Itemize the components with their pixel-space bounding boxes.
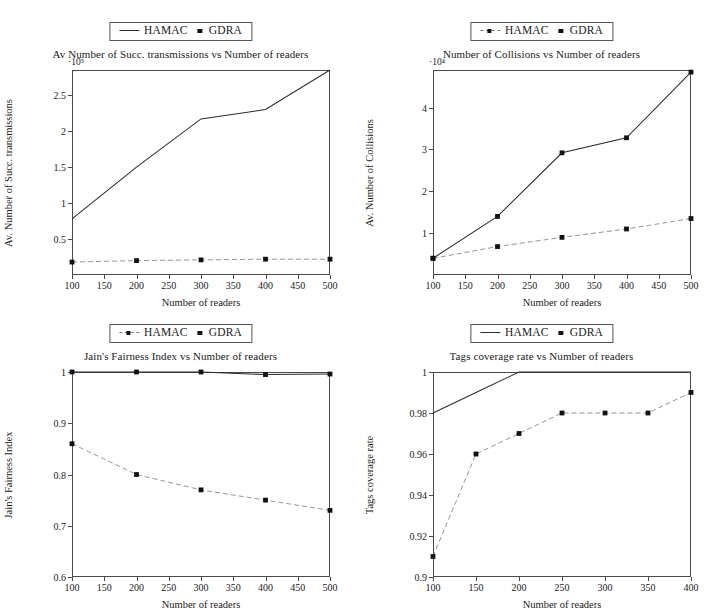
series-line-hamac	[72, 70, 330, 219]
series-layer	[361, 0, 722, 301]
data-point-marker	[134, 258, 139, 263]
data-point-marker	[646, 411, 651, 416]
data-point-marker	[70, 441, 75, 446]
data-point-marker	[603, 411, 608, 416]
data-point-marker	[624, 135, 629, 140]
data-point-marker	[263, 498, 268, 503]
data-point-marker	[199, 370, 204, 375]
series-line-gdra	[433, 393, 691, 557]
data-point-marker	[328, 508, 333, 513]
data-point-marker	[431, 554, 436, 559]
data-point-marker	[517, 431, 522, 436]
data-point-marker	[70, 260, 75, 265]
series-layer	[361, 302, 722, 603]
series-line-hamac	[433, 72, 691, 258]
data-point-marker	[495, 244, 500, 249]
data-point-marker	[624, 227, 629, 232]
series-layer	[0, 0, 361, 301]
data-point-marker	[70, 370, 75, 375]
data-point-marker	[560, 150, 565, 155]
data-point-marker	[328, 372, 333, 377]
data-point-marker	[134, 370, 139, 375]
data-point-marker	[474, 452, 479, 457]
data-point-marker	[199, 487, 204, 492]
data-point-marker	[199, 257, 204, 262]
series-line-hamac	[433, 372, 691, 413]
data-point-marker	[328, 257, 333, 262]
series-layer	[0, 302, 361, 603]
data-point-marker	[263, 257, 268, 262]
data-point-marker	[134, 472, 139, 477]
data-point-marker	[689, 390, 694, 395]
chart-panel-succ-transmissions: HAMACGDRAAv Number of Succ. transmission…	[0, 0, 361, 301]
data-point-marker	[560, 411, 565, 416]
series-line-gdra	[72, 444, 330, 511]
chart-panel-tags-coverage: HAMACGDRATags coverage rate vs Number of…	[361, 302, 722, 603]
data-point-marker	[689, 70, 694, 75]
data-point-marker	[431, 256, 436, 261]
data-point-marker	[560, 235, 565, 240]
data-point-marker	[689, 216, 694, 221]
data-point-marker	[263, 372, 268, 377]
chart-panel-jains-fairness: HAMACGDRAJain's Fairness Index vs Number…	[0, 302, 361, 603]
chart-panel-collisions: HAMACGDRANumber of Collisions vs Number …	[361, 0, 722, 301]
data-point-marker	[495, 214, 500, 219]
